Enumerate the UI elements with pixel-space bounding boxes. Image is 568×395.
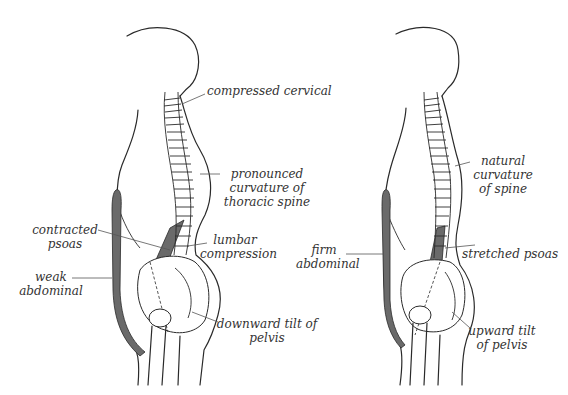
label-compressed-cervical: compressed cervical [207,84,332,98]
label-firm-abdominal: firm abdominal [296,243,352,271]
label-contracted-psoas: contracted psoas [30,223,100,251]
label-line: psoas [30,237,100,251]
label-line: curvature of [222,181,312,195]
front-outline [117,110,138,200]
label-line: pelvis [212,331,322,345]
label-line: of pelvis [464,338,540,352]
psoas-muscle [430,226,445,262]
label-line: weak [16,270,86,284]
label-lumbar-compression: lumbar compression [200,233,270,261]
label-line: of spine [468,182,538,196]
head-outline [127,28,199,96]
label-downward-tilt-pelvis: downward tilt of pelvis [212,317,322,345]
label-line: compression [200,247,270,261]
label-line: curvature [468,168,538,182]
label-line: downward tilt of [212,317,322,331]
label-line: thoracic spine [222,195,312,209]
label-upward-tilt-pelvis: upward tilt of pelvis [464,324,540,352]
arm-line [120,212,140,248]
head-outline [396,27,459,96]
label-line: upward tilt [464,324,540,338]
label-line: natural [468,154,538,168]
pelvis [401,260,465,335]
arm-line [388,215,405,250]
abdominal-muscle [382,190,405,348]
label-line: abdominal [296,257,352,271]
label-thoracic-curvature: pronounced curvature of thoracic spine [222,167,312,209]
pelvis [138,256,209,333]
label-line: lumbar [200,233,270,247]
figure-good-posture [382,27,474,385]
figure-poor-posture [112,28,220,385]
label-line: pronounced [222,167,312,181]
label-line: firm [296,243,352,257]
label-weak-abdominal: weak abdominal [16,270,86,298]
label-natural-curvature: natural curvature of spine [468,154,538,196]
label-line: abdominal [16,284,86,298]
label-line: contracted [30,223,100,237]
label-stretched-psoas: stretched psoas [462,247,558,261]
